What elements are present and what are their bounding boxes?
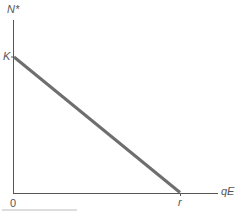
x-axis-label: qE <box>221 186 234 197</box>
r-tick-label: r <box>178 197 182 208</box>
k-tick-label: K <box>3 51 10 62</box>
figure-caption-cropped <box>2 209 77 211</box>
equilibrium-line <box>14 57 180 193</box>
y-axis-label: N* <box>7 4 19 15</box>
origin-label: 0 <box>10 198 16 209</box>
chart-canvas <box>0 0 245 211</box>
